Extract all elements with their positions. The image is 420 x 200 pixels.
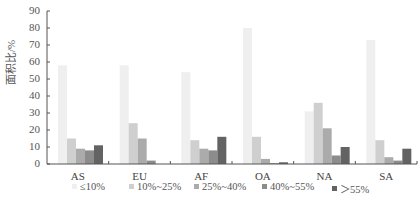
bar xyxy=(67,139,76,165)
bar xyxy=(384,157,393,164)
bar xyxy=(190,140,199,164)
bar xyxy=(217,137,226,164)
y-tick-label: 30 xyxy=(20,107,40,118)
bar xyxy=(243,28,252,164)
y-tick-label: 20 xyxy=(20,124,40,135)
y-axis-label: 面积比/% xyxy=(2,40,18,85)
legend-swatch-icon xyxy=(72,184,77,189)
legend-item: ＞55% xyxy=(332,181,369,196)
bar xyxy=(366,40,375,164)
y-tick-label: 80 xyxy=(20,22,40,33)
bar xyxy=(120,65,129,164)
bar xyxy=(393,161,402,164)
legend: ≤10%10%~25%25%~40%40%~55%＞55% xyxy=(0,181,420,195)
legend-label: 10%~25% xyxy=(137,181,181,192)
bar-chart: 0102030405060708090 面积比/% ASEUAFOANASA ≤… xyxy=(0,0,420,200)
bar xyxy=(94,145,103,164)
legend-swatch-icon xyxy=(262,184,267,189)
bar xyxy=(314,103,323,164)
legend-swatch-icon xyxy=(194,184,199,189)
bar xyxy=(138,139,147,165)
y-tick-label: 90 xyxy=(20,5,40,16)
legend-swatch-icon xyxy=(129,184,134,189)
bar xyxy=(58,65,67,164)
bar xyxy=(199,149,208,164)
bar xyxy=(129,123,138,164)
legend-label: ＞55% xyxy=(340,181,369,196)
bar xyxy=(252,137,261,164)
legend-item: 10%~25% xyxy=(129,181,181,192)
legend-item: 25%~40% xyxy=(194,181,246,192)
bar xyxy=(375,140,384,164)
y-tick-label: 0 xyxy=(20,158,40,169)
legend-item: ≤10% xyxy=(72,181,105,192)
bar xyxy=(332,156,341,165)
bar xyxy=(208,150,217,164)
y-tick-label: 50 xyxy=(20,73,40,84)
bar xyxy=(402,149,411,164)
bar xyxy=(76,149,85,164)
bar xyxy=(181,72,190,164)
bar xyxy=(261,159,270,164)
legend-item: 40%~55% xyxy=(262,181,314,192)
y-tick-label: 10 xyxy=(20,141,40,152)
y-tick-label: 60 xyxy=(20,56,40,67)
y-tick-label: 70 xyxy=(20,39,40,50)
legend-swatch-icon xyxy=(332,186,337,191)
bar xyxy=(147,161,156,164)
bar xyxy=(341,147,350,164)
bar xyxy=(305,111,314,164)
y-tick-label: 40 xyxy=(20,90,40,101)
bar xyxy=(323,128,332,164)
legend-label: ≤10% xyxy=(80,181,105,192)
legend-label: 40%~55% xyxy=(270,181,314,192)
bar xyxy=(85,150,94,164)
legend-label: 25%~40% xyxy=(202,181,246,192)
